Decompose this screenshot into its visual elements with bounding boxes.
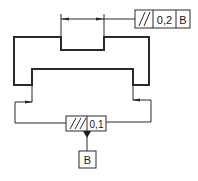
part-outline xyxy=(14,37,149,85)
bottom-feature-control-frame: 0,1 xyxy=(66,116,106,131)
parallelism-icon xyxy=(139,12,150,26)
top-feature-control-frame: 0,2 B xyxy=(135,10,190,28)
arrow-left-icon xyxy=(61,18,69,21)
datum-label: B xyxy=(84,154,91,166)
top-datum-reference: B xyxy=(179,14,186,26)
parallelism-icon xyxy=(70,118,86,129)
arrow-right-icon xyxy=(96,18,104,21)
leader-right xyxy=(106,100,151,122)
bottom-tolerance-value: 0,1 xyxy=(90,119,104,130)
top-tolerance-value: 0,2 xyxy=(157,14,172,26)
leader-left xyxy=(15,102,66,123)
tolerance-drawing: 0,2 B 0,1 B xyxy=(0,0,198,181)
datum-triangle-icon xyxy=(83,131,91,138)
